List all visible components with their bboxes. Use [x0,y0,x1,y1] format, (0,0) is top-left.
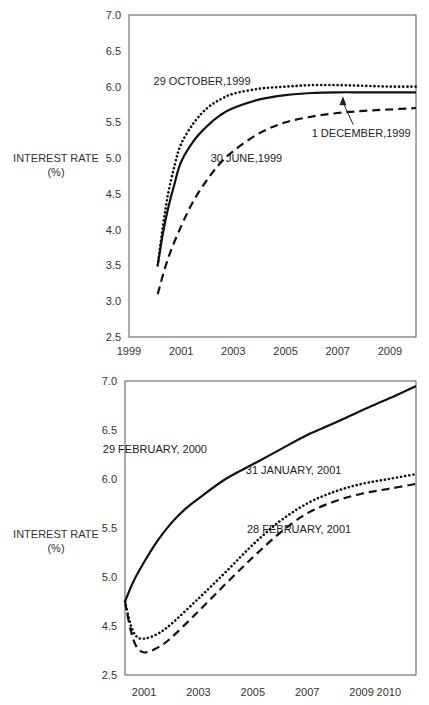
y-tick-label: 4.0 [106,224,121,236]
x-ticks: 200120032005200720092010 [132,686,401,698]
series-annotation: 1 DECEMBER,1999 [312,127,411,139]
series-line-dotted [158,85,416,265]
series-annotation: 29 OCTOBER,1999 [154,75,251,87]
y-tick-label: 7.0 [102,375,117,387]
y-tick-label: 5.5 [106,116,121,128]
series-annotation: 31 JANUARY, 2001 [246,464,342,476]
top-chart: 2.53.03.54.04.55.05.56.06.57.0 199920012… [13,9,416,357]
y-tick-label: 5.5 [102,522,117,534]
y-tick-label: 2.5 [106,331,121,343]
y-tick-label: 3.0 [106,295,121,307]
x-tick-label: 2003 [186,686,210,698]
series-group [158,85,416,294]
series-line-solid [125,386,416,602]
series-line-dotted [125,474,416,639]
y-ticks: 2.54.55.05.56.06.57.0 [102,375,117,681]
x-tick-label: 1999 [117,345,141,357]
y-tick-label: 4.5 [106,188,121,200]
y-axis-unit: (%) [47,542,64,554]
x-tick-label: 2001 [132,686,156,698]
y-axis-label: INTEREST RATE [13,528,99,540]
y-tick-label: 7.0 [106,9,121,21]
series-line-dashed [125,484,416,653]
y-tick-label: 6.0 [102,473,117,485]
y-axis-label: INTEREST RATE [13,152,99,164]
y-tick-label: 6.0 [106,81,121,93]
series-annotation: 29 FEBRUARY, 2000 [103,443,207,455]
y-ticks: 2.53.03.54.04.55.05.56.06.57.0 [106,9,121,343]
y-tick-label: 2.5 [102,669,117,681]
y-tick-label: 6.5 [102,424,117,436]
bottom-chart: 2.54.55.05.56.06.57.0 200120032005200720… [13,375,416,698]
x-tick-label: 2009 [378,345,402,357]
yield-curve-figure: 2.53.03.54.04.55.05.56.06.57.0 199920012… [0,0,429,705]
y-tick-label: 3.5 [106,259,121,271]
x-tick-label: 2005 [241,686,265,698]
x-tick-label: 2010 [377,686,401,698]
y-tick-label: 5.0 [102,571,117,583]
annotation-arrow-line [343,102,353,124]
annotations: 29 FEBRUARY, 200031 JANUARY, 200128 FEBR… [103,443,351,535]
x-tick-label: 2001 [169,345,193,357]
x-tick-label: 2007 [295,686,319,698]
series-line-solid [158,92,416,265]
arrow-head-icon [339,96,346,105]
x-tick-label: 2003 [221,345,245,357]
x-tick-label: 2007 [325,345,349,357]
annotations: 29 OCTOBER,19991 DECEMBER,199930 JUNE,19… [154,75,411,164]
x-tick-label: 2009 [349,686,373,698]
series-group [125,386,416,653]
y-tick-label: 6.5 [106,45,121,57]
x-ticks: 199920012003200520072009 [117,345,402,357]
y-tick-label: 5.0 [106,152,121,164]
y-axis-unit: (%) [47,166,64,178]
series-annotation: 30 JUNE,1999 [211,152,283,164]
x-tick-label: 2005 [273,345,297,357]
series-annotation: 28 FEBRUARY, 2001 [247,523,351,535]
y-tick-label: 4.5 [102,620,117,632]
